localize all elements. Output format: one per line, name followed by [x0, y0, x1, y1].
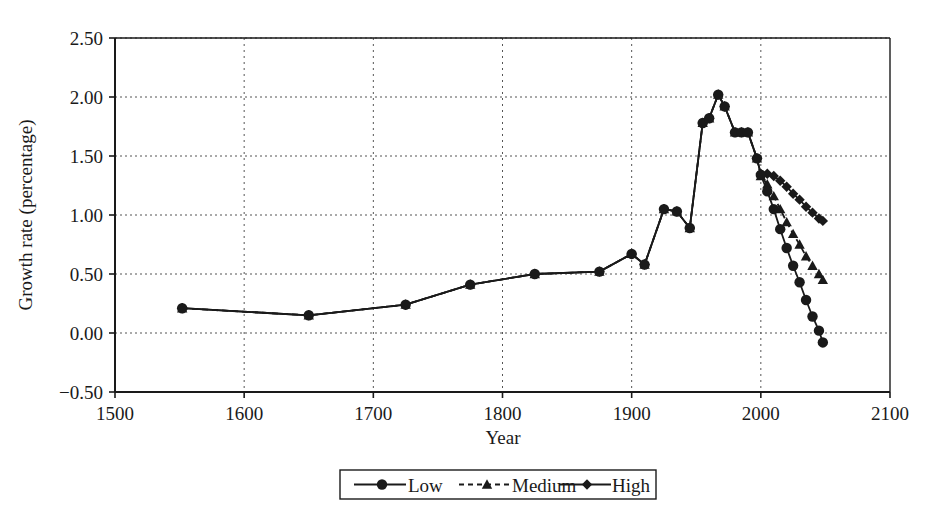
series-marker-low [781, 243, 791, 253]
x-tick-label: 1800 [484, 403, 522, 424]
y-axis-title: Growth rate (percentage) [15, 120, 37, 311]
series-marker-low [719, 101, 729, 111]
series-marker-low [752, 153, 762, 163]
chart-background [0, 0, 945, 522]
x-tick-label: 1700 [354, 403, 392, 424]
y-tick-label: 0.00 [70, 323, 103, 344]
series-marker-low [304, 310, 314, 320]
x-tick-label: 2000 [742, 403, 780, 424]
series-marker-low [639, 259, 649, 269]
chart-legend: LowMediumHigh [340, 470, 656, 499]
x-tick-label: 1600 [225, 403, 263, 424]
series-marker-low [530, 269, 540, 279]
series-marker-low [743, 127, 753, 137]
series-marker-low [177, 303, 187, 313]
series-marker-low [400, 299, 410, 309]
growth-rate-chart: 1500160017001800190020002100 −0.500.000.… [0, 0, 945, 522]
series-marker-low [807, 311, 817, 321]
y-tick-label: 0.50 [70, 264, 103, 285]
series-marker-low [788, 261, 798, 271]
series-marker-low [685, 223, 695, 233]
y-tick-label: 1.00 [70, 205, 103, 226]
legend-label-low: Low [408, 475, 443, 496]
legend-label-high: High [612, 475, 651, 496]
series-marker-low [801, 295, 811, 305]
series-marker-low [769, 204, 779, 214]
series-marker-low [794, 277, 804, 287]
x-tick-label: 2100 [871, 403, 909, 424]
y-tick-label: 2.00 [70, 87, 103, 108]
legend-marker-low [377, 479, 387, 489]
series-marker-low [626, 249, 636, 259]
x-tick-label: 1500 [96, 403, 134, 424]
series-marker-low [756, 170, 766, 180]
series-marker-low [465, 279, 475, 289]
series-marker-low [704, 113, 714, 123]
series-marker-low [594, 266, 604, 276]
x-axis-title: Year [485, 427, 521, 448]
series-marker-low [713, 89, 723, 99]
series-marker-low [672, 206, 682, 216]
y-tick-label: −0.50 [59, 382, 103, 403]
series-marker-low [775, 224, 785, 234]
y-tick-label: 2.50 [70, 28, 103, 49]
series-marker-low [818, 337, 828, 347]
series-marker-low [762, 186, 772, 196]
y-tick-label: 1.50 [70, 146, 103, 167]
chart-canvas: 1500160017001800190020002100 −0.500.000.… [0, 0, 945, 522]
series-marker-low [659, 204, 669, 214]
x-tick-label: 1900 [613, 403, 651, 424]
series-marker-low [814, 325, 824, 335]
